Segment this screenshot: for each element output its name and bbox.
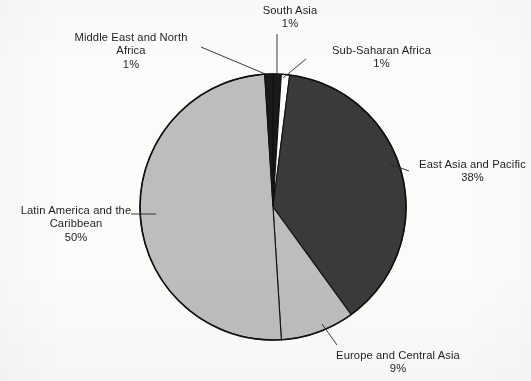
slice-label-mena-percent: 1% (50, 58, 212, 71)
slice-label-latin-america-caribbean: Latin America and the Caribbean 50% (2, 204, 150, 244)
slice-label-south-asia-percent: 1% (230, 17, 350, 30)
slice-label-lac-percent: 50% (2, 231, 150, 244)
slice-label-mena-name-line2: Africa (50, 44, 212, 57)
slice-label-south-asia-name: South Asia (263, 4, 318, 16)
slice-label-ssa-percent: 1% (304, 57, 459, 70)
pie-slice-latin-america-and-the-caribbean (140, 74, 281, 340)
slice-label-south-asia: South Asia 1% (230, 4, 350, 31)
slice-label-eca-name: Europe and Central Asia (336, 349, 460, 361)
pie-slice-group (140, 74, 406, 340)
slice-label-east-asia-pacific: East Asia and Pacific 38% (410, 158, 531, 185)
slice-label-eap-percent: 38% (410, 171, 531, 184)
slice-label-middle-east-north-africa: Middle East and North Africa 1% (50, 31, 212, 71)
slice-label-mena-name-line1: Middle East and North (74, 31, 187, 43)
slice-label-lac-name-line1: Latin America and the (21, 204, 132, 216)
slice-label-europe-central-asia: Europe and Central Asia 9% (318, 349, 478, 376)
slice-label-eca-percent: 9% (318, 362, 478, 375)
slice-label-eap-name: East Asia and Pacific (419, 158, 526, 170)
slice-label-ssa-name: Sub-Saharan Africa (332, 44, 431, 56)
slice-label-sub-saharan-africa: Sub-Saharan Africa 1% (304, 44, 459, 71)
pie-chart-figure: South Asia 1% Middle East and North Afri… (0, 0, 531, 381)
slice-label-lac-name-line2: Caribbean (2, 217, 150, 230)
